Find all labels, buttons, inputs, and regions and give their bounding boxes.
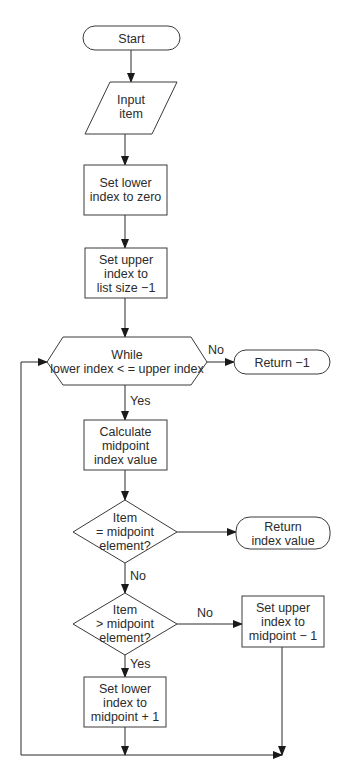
node-while: While lower index < = upper index — [47, 337, 207, 385]
node-calc-mid-text-1: Calculate — [99, 425, 151, 439]
node-gt-check-text-2: > midpoint — [96, 617, 155, 631]
node-set-lower-mid-text-3: midpoint + 1 — [91, 710, 159, 724]
node-set-lower-mid-text-2: index to — [103, 696, 147, 710]
node-return-neg: Return −1 — [234, 350, 330, 374]
node-set-upper-mid-text-1: Set upper — [256, 601, 310, 615]
node-calc-mid-text-3: index value — [94, 453, 157, 467]
edge-loop-back — [21, 362, 47, 755]
node-set-upper-size: Set upper index to list size −1 — [85, 248, 167, 298]
node-gt-check-text-3: element? — [99, 631, 150, 645]
node-set-upper-size-text-2: index to — [104, 267, 148, 281]
node-set-upper-mid: Set upper index to midpoint − 1 — [242, 596, 324, 647]
binary-search-flowchart: Start Input item Set lower index to zero… — [0, 0, 348, 779]
node-return-index-text-2: index value — [251, 534, 314, 548]
node-set-upper-size-text-3: list size −1 — [97, 281, 156, 295]
node-set-upper-mid-text-3: midpoint − 1 — [249, 629, 317, 643]
node-set-lower-zero-text-2: index to zero — [90, 190, 162, 204]
node-input-text-1: Input — [117, 93, 145, 107]
label-eq-no: No — [130, 569, 146, 583]
node-set-upper-size-text-1: Set upper — [99, 253, 153, 267]
label-gt-no: No — [197, 606, 213, 620]
node-calc-mid-text-2: midpoint — [102, 439, 150, 453]
node-set-lower-zero-text-1: Set lower — [99, 176, 151, 190]
connectors — [21, 50, 282, 755]
node-return-index: Return index value — [236, 517, 330, 549]
node-while-text-1: While — [111, 348, 142, 362]
node-input: Input item — [85, 82, 177, 134]
node-set-upper-mid-text-2: index to — [261, 615, 305, 629]
node-eq-check-text-1: Item — [113, 511, 137, 525]
node-return-neg-text: Return −1 — [254, 356, 309, 370]
node-start-text: Start — [118, 32, 145, 46]
label-while-no: No — [208, 343, 224, 357]
node-while-text-2: lower index < = upper index — [50, 362, 204, 376]
node-eq-check-text-3: element? — [99, 539, 150, 553]
node-eq-check: Item = midpoint element? — [73, 500, 177, 563]
node-calc-mid: Calculate midpoint index value — [84, 420, 167, 470]
node-start: Start — [83, 26, 180, 50]
label-while-yes: Yes — [130, 394, 150, 408]
node-eq-check-text-2: = midpoint — [96, 525, 155, 539]
node-gt-check-text-1: Item — [113, 603, 137, 617]
node-set-lower-zero: Set lower index to zero — [84, 165, 167, 215]
node-return-index-text-1: Return — [264, 520, 302, 534]
label-gt-yes: Yes — [130, 657, 150, 671]
node-set-lower-mid-text-1: Set lower — [99, 682, 151, 696]
node-gt-check: Item > midpoint element? — [73, 593, 177, 655]
node-set-lower-mid: Set lower index to midpoint + 1 — [84, 677, 166, 727]
node-input-text-2: item — [119, 107, 143, 121]
